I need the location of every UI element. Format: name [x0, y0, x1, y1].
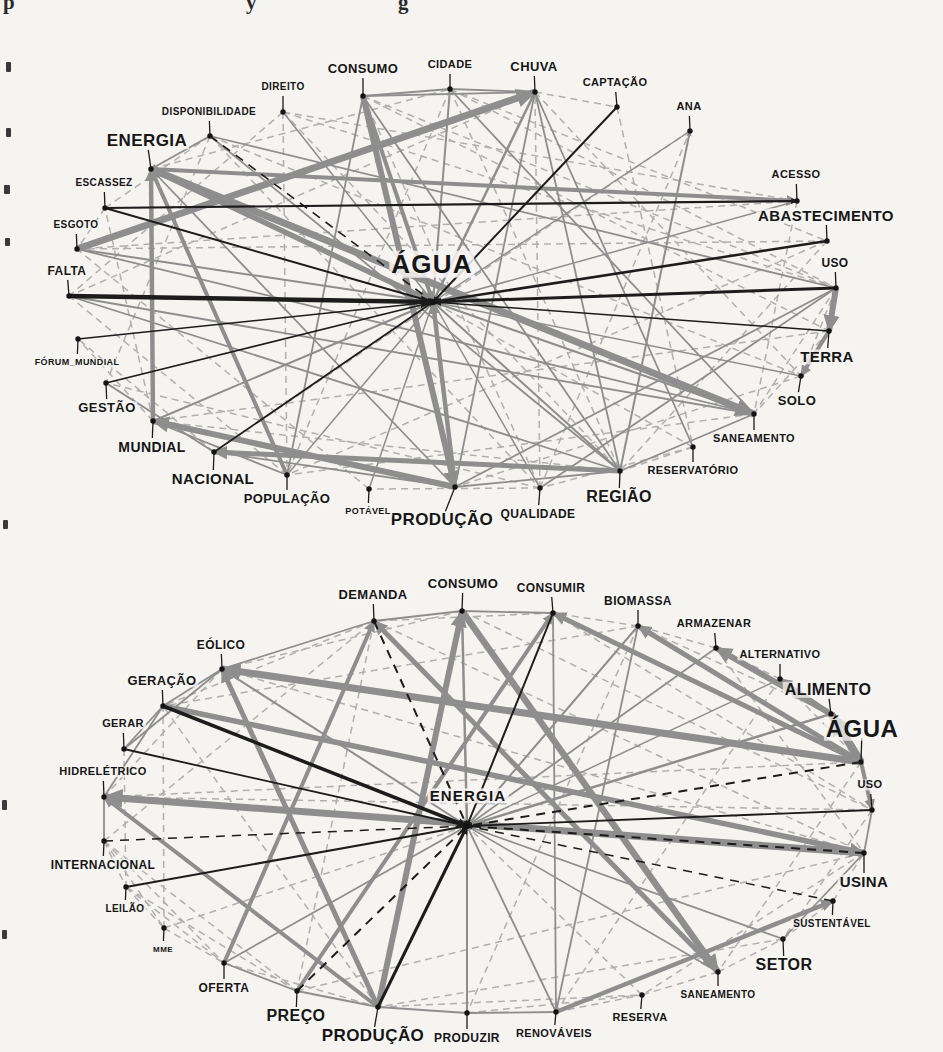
scan-edge-mark [2, 930, 7, 939]
node-label-sustentavel: SUSTENTÁVEL [791, 919, 873, 929]
node-label-saneamento: SANEAMENTO [679, 990, 758, 1000]
node-label-agua: ÁGUA [824, 717, 900, 741]
node-label-produzir: PRODUZIR [432, 1032, 502, 1044]
node-label-internacional: INTERNACIONAL [49, 859, 158, 871]
node-label-consumir: CONSUMIR [515, 582, 588, 594]
node-label-biomassa: BIOMASSA [602, 595, 674, 607]
node-label-leilao: LEILÃO [103, 904, 146, 914]
scan-edge-mark [6, 128, 11, 137]
scan-edge-mark [3, 520, 8, 529]
node-label-mme: MME [151, 946, 175, 954]
scan-edge-mark [2, 800, 7, 810]
node-label-producao: PRODUÇÃO [320, 1027, 426, 1044]
node-label-alimento: ALIMENTO [783, 682, 873, 698]
node-label-consumo: CONSUMO [426, 577, 501, 590]
node-label-armazenar: ARMAZENAR [675, 618, 753, 629]
node-label-energia: ENERGIA [428, 788, 509, 803]
node-label-renovaveis: RENOVÁVEIS [514, 1028, 594, 1039]
scan-edge-mark [5, 238, 10, 246]
node-label-preco: PREÇO [265, 1008, 328, 1024]
node-label-geracao: GERAÇÃO [125, 674, 198, 687]
energia-network: ENERGIADEMANDACONSUMOCONSUMIRBIOMASSAARM… [0, 0, 943, 1052]
page: pyg ÁGUACONSUMOCIDADECHUVACAPTAÇÃOANAACE… [0, 0, 943, 1052]
node-label-oferta: OFERTA [197, 982, 252, 994]
node-label-hidreletrico: HIDRELÉTRICO [57, 766, 148, 777]
node-label-gerar: GERAR [100, 718, 146, 729]
energia-network-labels: ENERGIADEMANDACONSUMOCONSUMIRBIOMASSAARM… [0, 0, 943, 1052]
node-label-setor: SETOR [754, 957, 815, 973]
node-label-alternativo: ALTERNATIVO [738, 649, 823, 660]
node-label-usina: USINA [838, 874, 891, 889]
scan-edge-mark [4, 185, 10, 194]
node-label-uso: USO [855, 779, 884, 790]
node-label-eolico: EÓLICO [195, 639, 247, 651]
scan-edge-mark [6, 62, 11, 72]
node-label-reserva: RESERVA [611, 1012, 670, 1023]
node-label-demanda: DEMANDA [336, 588, 409, 601]
